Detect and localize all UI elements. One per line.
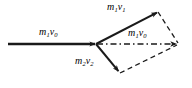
- label-resultant-momentum: m1v0: [128, 28, 147, 38]
- label-particle1-momentum-sub2: 1: [122, 6, 125, 13]
- label-resultant-momentum-sub1: 1: [135, 32, 138, 39]
- label-particle2-momentum: m2v2: [75, 56, 94, 66]
- label-particle2-momentum-sub2: 2: [90, 60, 93, 67]
- label-particle2-momentum-sub1: 2: [82, 60, 85, 67]
- momentum-vector-diagram: m1v0 m1v1 m1v0 m2v2: [0, 0, 192, 88]
- label-particle1-momentum-sub1: 1: [114, 6, 117, 13]
- label-incoming-momentum: m1v0: [39, 27, 58, 37]
- vector-diagram-canvas: [0, 0, 192, 88]
- particle2-momentum-vector: [96, 44, 118, 71]
- label-particle1-momentum: m1v1: [107, 2, 126, 12]
- label-incoming-momentum-sub1: 1: [46, 31, 49, 38]
- label-incoming-momentum-sub2: 0: [54, 31, 57, 38]
- parallelogram-edge-lower: [120, 45, 177, 73]
- parallelogram-edge-upper: [158, 12, 178, 43]
- particle1-momentum-vector: [96, 13, 157, 44]
- label-resultant-momentum-sub2: 0: [143, 32, 146, 39]
